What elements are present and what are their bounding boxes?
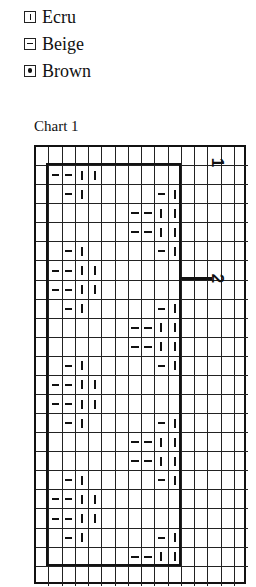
grid-cell — [36, 509, 49, 528]
grid-cell — [235, 166, 248, 185]
grid-cell — [89, 471, 102, 490]
grid-cell — [208, 414, 221, 433]
grid-cell — [155, 471, 168, 490]
grid-cell — [169, 567, 182, 586]
grid-cell — [129, 319, 142, 338]
grid-cell — [116, 204, 129, 223]
grid-cell — [63, 433, 76, 452]
grid-cell — [155, 395, 168, 414]
grid-cell — [63, 395, 76, 414]
grid-cell — [182, 166, 195, 185]
grid-cell — [36, 281, 49, 300]
grid-cell — [76, 395, 89, 414]
grid-cell — [182, 433, 195, 452]
grid-cell — [169, 414, 182, 433]
ecru-stitch-symbol — [94, 514, 96, 523]
grid-cell — [142, 242, 155, 261]
grid-cell — [76, 338, 89, 357]
grid-cell — [222, 433, 235, 452]
grid-cell — [169, 338, 182, 357]
grid-cell — [208, 281, 221, 300]
ecru-stitch-symbol — [174, 209, 176, 218]
ecru-stitch-symbol — [81, 400, 83, 409]
ecru-stitch-symbol — [160, 552, 162, 561]
grid-cell — [49, 509, 62, 528]
grid-cell — [155, 185, 168, 204]
grid-cell — [116, 223, 129, 242]
grid-cell — [155, 319, 168, 338]
ecru-stitch-symbol — [174, 190, 176, 199]
grid-cell — [49, 452, 62, 471]
ecru-stitch-symbol — [81, 361, 83, 370]
grid-cell — [195, 147, 208, 166]
color-legend: Ecru Beige Brown — [24, 3, 91, 84]
grid-cell — [222, 185, 235, 204]
grid-cell — [49, 223, 62, 242]
grid-cell — [208, 166, 221, 185]
grid-cell — [116, 242, 129, 261]
grid-cell — [49, 471, 62, 490]
grid-cell — [169, 223, 182, 242]
grid-cell — [63, 147, 76, 166]
grid-cell — [36, 338, 49, 357]
grid-cell — [129, 414, 142, 433]
legend-label: Brown — [42, 62, 91, 80]
grid-cell — [63, 185, 76, 204]
grid-cell — [182, 204, 195, 223]
grid-cell — [63, 338, 76, 357]
grid-cell — [235, 242, 248, 261]
grid-cell — [89, 147, 102, 166]
grid-cell — [49, 433, 62, 452]
ecru-stitch-symbol — [81, 514, 83, 523]
grid-cell — [116, 490, 129, 509]
grid-cell — [208, 567, 221, 586]
grid-cell — [89, 319, 102, 338]
grid-cell — [36, 185, 49, 204]
beige-stitch-symbol — [65, 537, 72, 539]
grid-cell — [102, 281, 115, 300]
grid-cell — [155, 376, 168, 395]
grid-cell — [102, 357, 115, 376]
grid-cell — [169, 147, 182, 166]
grid-cell — [129, 395, 142, 414]
grid-cell — [116, 185, 129, 204]
grid-cell — [235, 567, 248, 586]
grid-cell — [222, 281, 235, 300]
grid-cell — [235, 529, 248, 548]
grid-cell — [102, 166, 115, 185]
grid-cell — [169, 166, 182, 185]
grid-cell — [208, 223, 221, 242]
beige-stitch-symbol — [65, 193, 72, 195]
grid-cell — [129, 452, 142, 471]
beige-stitch-symbol — [158, 422, 165, 424]
grid-cell — [49, 204, 62, 223]
ecru-stitch-symbol — [174, 323, 176, 332]
grid-cell — [116, 300, 129, 319]
grid-cell — [129, 357, 142, 376]
grid-cell — [222, 414, 235, 433]
grid-cell — [235, 300, 248, 319]
grid-cell — [129, 147, 142, 166]
grid-cell — [142, 567, 155, 586]
grid-cell — [155, 204, 168, 223]
grid-cell — [129, 242, 142, 261]
section-label-1: 1 — [209, 158, 226, 167]
grid-cell — [36, 242, 49, 261]
grid-cell — [195, 281, 208, 300]
grid-cell — [63, 204, 76, 223]
grid-cell — [49, 529, 62, 548]
grid-cell — [155, 433, 168, 452]
beige-stitch-symbol — [131, 460, 138, 462]
grid-cell — [235, 376, 248, 395]
grid-cell — [76, 529, 89, 548]
grid-cell — [89, 185, 102, 204]
grid-cell — [195, 376, 208, 395]
grid-cell — [142, 433, 155, 452]
grid-cell — [89, 281, 102, 300]
grid-cell — [195, 300, 208, 319]
grid-cell — [76, 471, 89, 490]
grid-cell — [76, 261, 89, 280]
grid-cell — [235, 223, 248, 242]
grid-cell — [195, 548, 208, 567]
grid-cell — [169, 242, 182, 261]
